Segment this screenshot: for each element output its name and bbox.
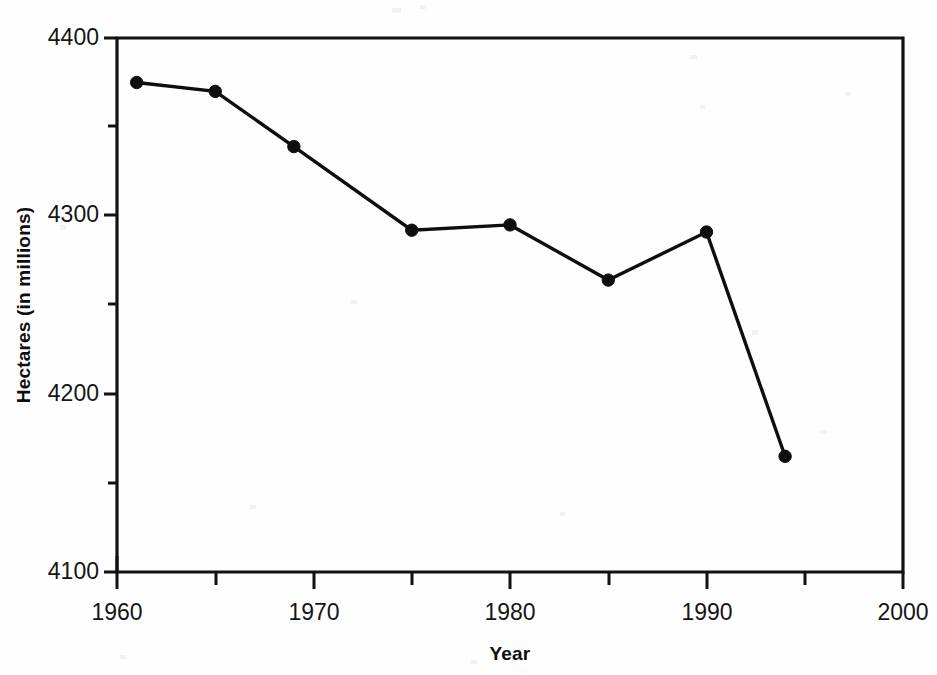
x-tick-label-1980: 1980 [484,599,535,625]
x-tick-label-1960: 1960 [91,599,142,625]
y-tick-label-4300: 4300 [48,201,99,227]
line-chart: 4400 4300 4200 4100 1960 1970 1980 1990 … [0,0,937,675]
scan-noise [60,5,851,664]
plot-frame [117,38,903,572]
data-point [209,85,221,97]
data-point [130,76,142,88]
data-point [504,219,516,231]
y-tick-label-4100: 4100 [48,558,99,584]
x-tick-label-1990: 1990 [681,599,732,625]
x-tick-label-1970: 1970 [288,599,339,625]
y-axis-ticks [104,38,117,572]
x-axis-title: Year [490,643,531,664]
data-point [779,450,791,462]
data-point [288,140,300,152]
x-axis-tick-labels: 1960 1970 1980 1990 2000 [91,599,928,625]
data-series-hectares [130,76,791,462]
y-axis-title: Hectares (in millions) [13,207,34,404]
y-tick-label-4400: 4400 [48,24,99,50]
y-tick-label-4200: 4200 [48,380,99,406]
series-markers [130,76,791,462]
chart-figure: 4400 4300 4200 4100 1960 1970 1980 1990 … [0,0,937,675]
y-axis-tick-labels: 4400 4300 4200 4100 [48,24,99,584]
x-tick-label-2000: 2000 [877,599,928,625]
data-point [406,224,418,236]
data-point [700,226,712,238]
series-line [137,83,785,457]
data-point [602,274,614,286]
